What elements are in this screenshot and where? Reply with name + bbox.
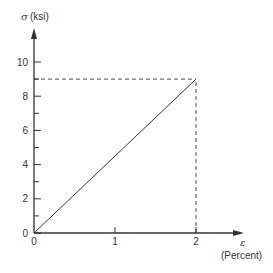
y-tick-label: 0 bbox=[22, 228, 28, 239]
y-axis-unit: (ksi) bbox=[30, 11, 49, 22]
y-tick-label: 8 bbox=[22, 91, 28, 102]
x-tick-label: 1 bbox=[112, 236, 118, 247]
y-tick-label: 6 bbox=[22, 125, 28, 136]
labels: σ (ksi) ε (Percent) bbox=[21, 11, 262, 261]
x-tick-label: 2 bbox=[193, 236, 199, 247]
x-axis-unit: (Percent) bbox=[221, 250, 262, 261]
stress-strain-chart: 0246810012 σ (ksi) ε (Percent) bbox=[0, 0, 273, 273]
ticks: 0246810012 bbox=[17, 57, 199, 248]
x-axis-symbol: ε bbox=[240, 237, 245, 248]
x-tick-label: 0 bbox=[31, 236, 37, 247]
series bbox=[34, 79, 196, 233]
x-axis-arrow-icon bbox=[233, 230, 244, 236]
y-axis-arrow-icon bbox=[31, 28, 37, 39]
y-tick-label: 10 bbox=[17, 57, 29, 68]
series-line bbox=[34, 79, 196, 233]
y-tick-label: 4 bbox=[22, 159, 28, 170]
axes bbox=[31, 28, 244, 236]
y-axis-symbol: σ bbox=[21, 11, 29, 22]
y-tick-label: 2 bbox=[22, 193, 28, 204]
